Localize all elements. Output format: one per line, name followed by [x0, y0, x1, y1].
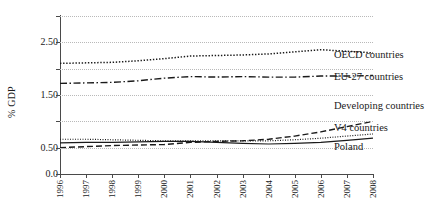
gridline: [60, 16, 373, 17]
x-tick-label: 2001: [186, 180, 195, 198]
x-tick-label: 2007: [343, 180, 352, 198]
x-tick-mark: [60, 174, 61, 178]
gridline: [60, 121, 373, 122]
series-label: V4 countries: [334, 122, 388, 133]
x-tick-mark: [321, 174, 322, 178]
x-axis-tick-labels: 1996199719981999200020012002200320042005…: [60, 180, 374, 216]
x-tick-label: 2006: [317, 180, 326, 198]
x-tick-mark: [373, 174, 374, 178]
x-tick-label: 2004: [265, 180, 274, 198]
x-tick-label: 2002: [213, 180, 222, 198]
x-tick-label: 2008: [369, 180, 378, 198]
plot-area: [60, 16, 373, 174]
gridline: [60, 148, 373, 149]
x-tick-label: 2000: [160, 180, 169, 198]
x-tick-mark: [243, 174, 244, 178]
series-label: EU-27 countries: [334, 71, 403, 82]
gridline: [60, 95, 373, 96]
gridline: [60, 69, 373, 70]
x-tick-mark: [164, 174, 165, 178]
series-label: Poland: [334, 141, 363, 152]
x-tick-mark: [295, 174, 296, 178]
series-line: [60, 50, 373, 64]
x-tick-mark: [138, 174, 139, 178]
x-tick-label: 1999: [134, 180, 143, 198]
y-tick-mark: [56, 95, 60, 96]
x-tick-mark: [112, 174, 113, 178]
series-line: [60, 134, 373, 141]
y-tick-mark: [56, 42, 60, 43]
x-tick-mark: [190, 174, 191, 178]
series-label: Developing countries: [334, 100, 424, 111]
x-tick-mark: [217, 174, 218, 178]
y-tick-mark: [56, 121, 60, 122]
x-tick-mark: [86, 174, 87, 178]
x-tick-label: 1997: [82, 180, 91, 198]
y-tick-mark: [56, 69, 60, 70]
x-tick-label: 2005: [291, 180, 300, 198]
x-tick-label: 1998: [108, 180, 117, 198]
y-tick-mark: [56, 174, 60, 175]
series-label: OECD countries: [334, 49, 404, 60]
x-tick-mark: [269, 174, 270, 178]
x-tick-label: 2003: [239, 180, 248, 198]
series-line: [60, 76, 373, 84]
y-tick-mark: [56, 148, 60, 149]
gridline: [60, 42, 373, 43]
x-tick-mark: [347, 174, 348, 178]
y-tick-mark: [56, 16, 60, 17]
series-line: [60, 121, 373, 147]
x-tick-label: 1996: [56, 180, 65, 198]
chart-root: % GDP 0.00.501.502.50 199619971998199920…: [0, 0, 436, 216]
y-axis-tick-labels: 0.00.501.502.50: [18, 0, 58, 216]
